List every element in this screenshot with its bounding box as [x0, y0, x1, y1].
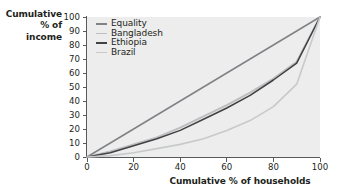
x-axis-title: Cumulative % of households: [140, 176, 340, 186]
lorenz-curve-chart: Cumulative % of income 01020304050607080…: [0, 0, 341, 194]
series-lines: [0, 0, 341, 194]
legend-swatch-icon-equality: [96, 23, 107, 25]
legend-item-brazil: Brazil: [96, 48, 163, 58]
legend-swatch-icon-ethiopia: [96, 42, 107, 44]
legend-swatch-icon-bangladesh: [96, 33, 107, 35]
legend-swatch-icon-brazil: [96, 52, 107, 54]
legend-label: Brazil: [111, 48, 136, 58]
legend: EqualityBangladeshEthiopiaBrazil: [96, 19, 163, 57]
